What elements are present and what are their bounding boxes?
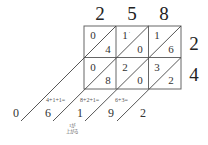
diagonal-sum-label: 4+1+1= xyxy=(46,97,66,103)
diagonal-sum-labels: 4+1+1= 8+2+1= 6+3= xyxy=(46,97,128,103)
cell-tens: 0 xyxy=(90,61,96,73)
lattice-diagram: 2 5 8 2 4 0 4 1 ' 0 1 6 0 8 2 0 3 2 4+1+… xyxy=(0,0,208,145)
cell-ones: 8 xyxy=(105,74,111,86)
result-digit: 6 xyxy=(45,106,51,120)
cell-ones: 2 xyxy=(168,74,174,86)
cell-ones: 6 xyxy=(168,43,174,55)
multiplicand-digit: 2 xyxy=(95,3,105,24)
result-digit: 0 xyxy=(13,106,19,120)
multiplicand-digit: 8 xyxy=(159,3,169,24)
cell-mark: ' xyxy=(129,31,130,36)
cell-tens: 1 xyxy=(122,29,128,41)
cell-ones: 0 xyxy=(137,74,143,86)
result-digit: 1 xyxy=(77,106,83,120)
cell-ones: 0 xyxy=(137,43,143,55)
multiplier-digits: 2 4 xyxy=(189,33,199,85)
multiplicand-digits: 2 5 8 xyxy=(95,3,169,24)
cell-ones: 4 xyxy=(105,43,111,55)
diagonal-sum-label: 8+2+1= xyxy=(80,97,100,103)
carry-note-line: 1が xyxy=(69,122,76,129)
cell-tens: 1 xyxy=(154,29,160,41)
carry-note-line: 上がる xyxy=(66,128,78,135)
multiplier-digit: 4 xyxy=(189,64,199,85)
carry-note: 1が 上がる xyxy=(66,122,78,135)
cell-tens: 0 xyxy=(90,29,96,41)
result-digit: 9 xyxy=(108,106,114,120)
lattice-grid xyxy=(84,26,181,89)
multiplier-digit: 2 xyxy=(189,33,199,54)
result-digit: 2 xyxy=(140,106,146,120)
diagonal-line xyxy=(53,26,149,121)
diagonal-line xyxy=(21,26,116,121)
diagonal-line xyxy=(85,26,181,121)
multiplicand-digit: 5 xyxy=(127,3,137,24)
result-digits: 0 6 1 9 2 xyxy=(13,106,146,120)
cell-tens: 2 xyxy=(122,61,128,73)
diagonal-sum-label: 6+3= xyxy=(115,97,128,103)
cell-tens: 3 xyxy=(154,61,160,73)
